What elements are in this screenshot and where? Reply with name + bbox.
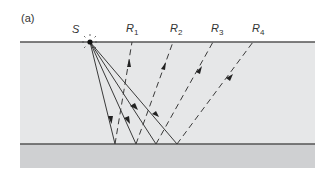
receiver-label-r4: R4 <box>252 22 265 37</box>
panel-label: (a) <box>21 12 34 24</box>
receiver-label-r1: R1 <box>126 22 139 37</box>
seismic-reflection-diagram: (a) S R1 R2 R3 R4 <box>0 0 333 175</box>
lower-layer <box>20 144 315 168</box>
receiver-label-r3: R3 <box>211 22 224 37</box>
source-label: S <box>72 23 80 35</box>
source-point <box>87 39 92 44</box>
receiver-label-r2: R2 <box>170 22 183 37</box>
